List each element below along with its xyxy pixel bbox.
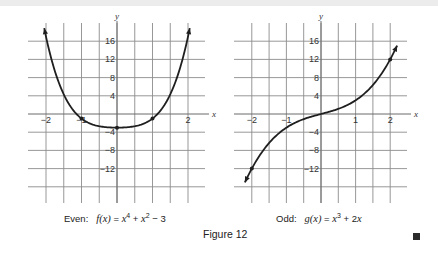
even-function-caption: Even: f(x) = x4 + x2 − 3 <box>64 212 166 224</box>
x-tick-label: 2 <box>185 115 190 125</box>
y-tick-label: 8 <box>110 73 115 83</box>
caption-expression: x3 + 2x <box>332 213 361 224</box>
caption-function-name: g(x) <box>305 213 322 224</box>
caption-expression: x4 + x2 − 3 <box>122 213 166 224</box>
x-tick-label: −1 <box>281 115 291 125</box>
data-point <box>115 126 119 130</box>
caption-prefix: Odd: <box>276 213 297 224</box>
y-tick-label: −4 <box>105 127 115 137</box>
y-axis-label: y <box>318 11 323 21</box>
y-tick-label: 8 <box>314 73 319 83</box>
x-axis-label: x <box>211 109 216 119</box>
figure-label: Figure 12 <box>203 228 247 240</box>
data-point <box>250 167 254 171</box>
data-point <box>80 117 84 121</box>
data-point <box>388 57 392 61</box>
x-tick-label: 1 <box>353 115 358 125</box>
y-tick-label: −4 <box>309 127 319 137</box>
y-tick-label: −8 <box>105 145 115 155</box>
y-tick-label: 16 <box>309 36 319 46</box>
x-tick-label: −2 <box>247 115 257 125</box>
y-tick-label: 16 <box>105 36 115 46</box>
axes <box>28 21 209 203</box>
end-of-proof-mark <box>413 233 420 240</box>
x-tick-label: 2 <box>388 115 393 125</box>
odd-function-caption: Odd: g(x) = x3 + 2x <box>276 212 362 224</box>
caption-function-name: f(x) <box>96 213 111 224</box>
y-tick-label: 4 <box>314 91 319 101</box>
caption-equals: = <box>113 213 119 224</box>
y-tick-label: −12 <box>304 164 319 174</box>
y-tick-label: −12 <box>100 164 115 174</box>
y-tick-label: 12 <box>309 54 319 64</box>
odd-function-chart: xy−2−112161284−4−8−12 <box>234 11 418 203</box>
even-function-chart: xy−2−12161284−4−8−12 <box>28 11 216 203</box>
y-axis-label: y <box>114 11 119 21</box>
axes <box>234 21 411 203</box>
caption-prefix: Even: <box>64 213 88 224</box>
data-point <box>151 117 155 121</box>
x-tick-label: −2 <box>41 115 51 125</box>
caption-equals: = <box>324 213 330 224</box>
x-axis-label: x <box>413 109 418 119</box>
y-tick-label: −8 <box>309 145 319 155</box>
y-tick-label: 4 <box>110 91 115 101</box>
y-tick-label: 12 <box>105 54 115 64</box>
